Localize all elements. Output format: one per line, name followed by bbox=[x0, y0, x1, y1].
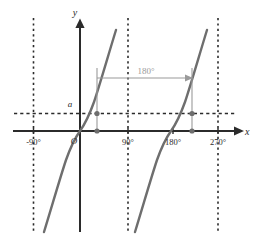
intersection-dot-2 bbox=[189, 111, 194, 116]
tick-label-270: 270° bbox=[210, 137, 226, 147]
tangent-graph-figure: x y O a -90° 90° 180° 270° 180° bbox=[0, 0, 259, 244]
origin-label: O bbox=[71, 136, 78, 146]
x-axis-dot-1 bbox=[94, 128, 99, 133]
period-annotation-label: 180° bbox=[137, 66, 155, 76]
intersection-dot-1 bbox=[94, 111, 99, 116]
figure-background bbox=[0, 0, 259, 244]
value-label-a: a bbox=[68, 99, 73, 109]
x-axis-dot-2 bbox=[189, 128, 194, 133]
x-axis-label: x bbox=[244, 126, 250, 137]
tick-label-90: 90° bbox=[122, 137, 134, 147]
tick-label-180: 180° bbox=[165, 137, 181, 147]
y-axis-label: y bbox=[72, 7, 78, 18]
tick-label-minus-90: -90° bbox=[26, 137, 41, 147]
graph-canvas: x y O a -90° 90° 180° 270° 180° bbox=[0, 0, 259, 244]
